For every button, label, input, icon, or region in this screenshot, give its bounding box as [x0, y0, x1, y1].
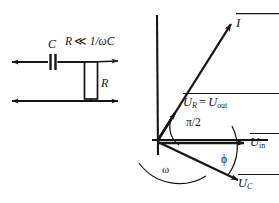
- vector-arrow-accent-uin: [250, 131, 279, 136]
- u-in-vector-glyph: Uin: [250, 136, 265, 149]
- circuit-top-wire-left: [12, 60, 48, 65]
- figure-root: C R R ≪ 1/ωC I UR = Uout: [0, 0, 279, 203]
- circuit-ground-wire: [12, 99, 118, 104]
- condition-expression: 1/ωC: [90, 35, 115, 47]
- u-out-base: U: [208, 95, 217, 109]
- u-r-equals-u-out-label: UR = Uout: [183, 96, 227, 110]
- phi-angle-arc: [228, 126, 237, 175]
- vector-arrow-accent-uc: [238, 172, 279, 177]
- current-vector-glyph: I: [236, 16, 240, 29]
- u-in-subscript: in: [259, 141, 265, 150]
- omega-label: ω: [162, 164, 169, 175]
- omega-rotation-arc: [139, 163, 206, 184]
- vector-arrow-accent-uout: [208, 91, 279, 96]
- resistor-symbol: [85, 62, 98, 99]
- u-r-subscript: R: [192, 101, 197, 110]
- vertical-axis-line: [157, 15, 158, 155]
- u-c-vector-glyph: UC: [238, 177, 253, 191]
- u-in-vector-label: Uin: [250, 136, 265, 149]
- right-angle-arc: [170, 120, 179, 145]
- right-angle-label: π/2: [186, 117, 201, 129]
- u-out-subscript: out: [217, 101, 227, 110]
- equals-sign: =: [197, 95, 208, 109]
- condition-resistor: R: [65, 35, 72, 47]
- u-r-base: U: [183, 95, 192, 109]
- u-r-vector-glyph: UR: [183, 96, 197, 110]
- capacitor-label: C: [48, 38, 56, 50]
- phi-label: ϕ: [221, 154, 227, 166]
- resistor-label: R: [101, 77, 108, 89]
- u-c-base: U: [238, 176, 247, 190]
- capacitor-symbol: [51, 54, 56, 70]
- filter-condition-label: R ≪ 1/ωC: [65, 36, 114, 48]
- vector-arrow-accent-i: [236, 11, 279, 16]
- u-c-vector-label: UC: [238, 177, 253, 191]
- u-r-vector-arrow: [158, 113, 175, 140]
- u-in-base: U: [250, 135, 259, 149]
- current-vector-label: I: [236, 16, 240, 29]
- u-c-subscript: C: [247, 182, 253, 191]
- condition-relation: ≪: [74, 35, 87, 47]
- current-symbol: I: [236, 15, 240, 30]
- u-out-vector-glyph: Uout: [208, 96, 227, 109]
